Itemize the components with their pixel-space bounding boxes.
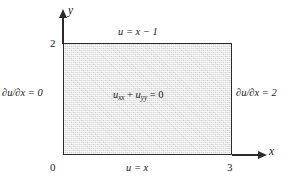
y-axis-arrow-icon — [59, 9, 67, 18]
boundary-condition-bottom: u = x — [126, 163, 148, 174]
bc-bottom-text: u = x — [126, 162, 148, 173]
origin-tick-label: 0 — [50, 162, 56, 173]
boundary-condition-left: ∂u/∂x = 0 — [2, 88, 43, 99]
x-axis-line — [232, 154, 260, 156]
bc-top-text: u = x − 1 — [118, 26, 158, 37]
x-axis-arrow-icon — [258, 151, 267, 159]
governing-equation: uxx + uyy = 0 — [113, 90, 163, 102]
boundary-condition-right: ∂u/∂x = 2 — [236, 88, 277, 99]
x-axis-label: x — [269, 146, 274, 158]
bc-right-text: ∂u/∂x = 2 — [236, 87, 277, 98]
y-max-tick-label: 2 — [50, 38, 56, 49]
y-axis-line — [62, 16, 64, 44]
laplace-boundary-value-diagram: y x 2 0 3 u = x − 1 u = x ∂u/∂x = 0 ∂u/∂… — [0, 0, 290, 186]
x-max-tick-label: 3 — [227, 162, 233, 173]
pde-operator: + — [124, 89, 135, 100]
pde-equals-zero: = 0 — [147, 89, 163, 100]
boundary-condition-top: u = x − 1 — [118, 27, 158, 38]
y-axis-label: y — [68, 5, 73, 17]
bc-left-text: ∂u/∂x = 0 — [2, 87, 43, 98]
